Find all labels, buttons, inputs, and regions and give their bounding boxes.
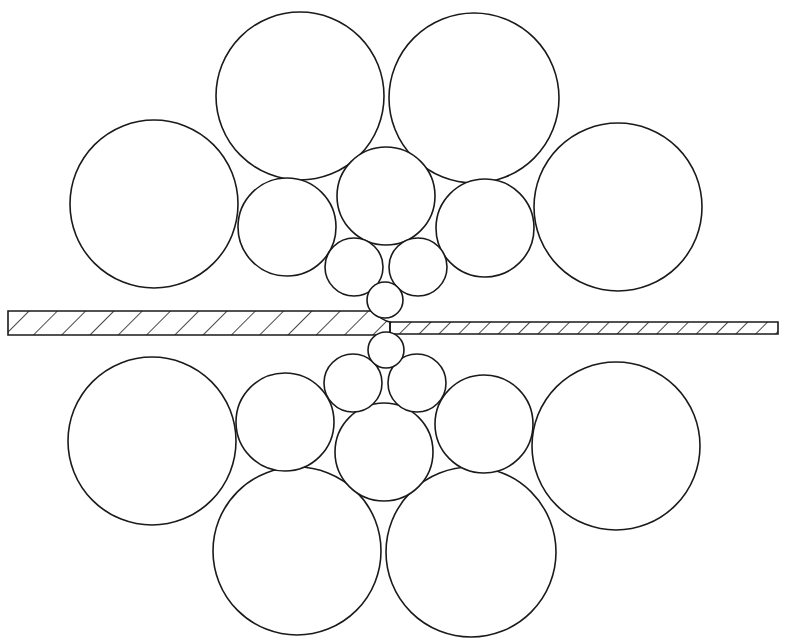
- lower-backup-roll-4: [532, 362, 700, 530]
- upper-backup-roll-4: [534, 123, 702, 291]
- lower-roll-stack: [68, 354, 700, 637]
- rolling-mill-diagram: [0, 0, 793, 643]
- upper-second-intermediate-roll-3: [436, 179, 534, 277]
- strip-entry-section: [8, 311, 390, 335]
- lower-work-roll: [368, 332, 404, 368]
- strip-exit-section: [390, 322, 778, 334]
- upper-work-roll: [367, 282, 403, 318]
- lower-second-intermediate-roll-1: [236, 373, 334, 471]
- upper-roll-stack: [70, 12, 702, 296]
- lower-backup-roll-1: [68, 357, 236, 525]
- upper-second-intermediate-roll-2: [337, 147, 435, 245]
- upper-backup-roll-1: [70, 120, 238, 288]
- lower-second-intermediate-roll-2: [335, 403, 433, 501]
- lower-second-intermediate-roll-3: [435, 375, 533, 473]
- upper-second-intermediate-roll-1: [238, 178, 336, 276]
